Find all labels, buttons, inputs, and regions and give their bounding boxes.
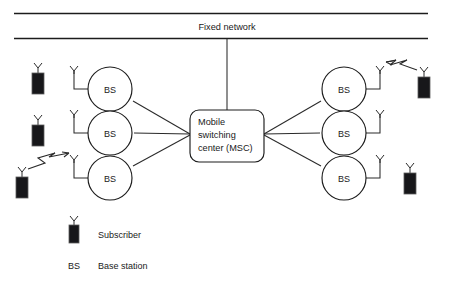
bs-left-top-label: BS [104, 85, 116, 95]
diagram-canvas: Fixed network Mobile switching center (M… [0, 0, 454, 287]
bs-right-top-node[interactable]: BS [322, 66, 384, 111]
bs-left-middle-label: BS [104, 129, 116, 139]
subscriber-left-bottom[interactable] [16, 167, 28, 198]
legend-subscriber-label: Subscriber [98, 230, 141, 240]
bs-right-middle-label: BS [338, 129, 350, 139]
link-bs-right-top-to-msc [264, 101, 321, 134]
legend-subscriber-handset-icon [69, 225, 79, 243]
subscriber-left-bottom-handset[interactable] [16, 177, 28, 198]
subscriber-left-middle-handset[interactable] [32, 125, 44, 146]
msc-label-line3: center (MSC) [198, 143, 253, 153]
subscriber-right-top-handset[interactable] [418, 77, 430, 98]
bs-right-bottom-node[interactable]: BS [322, 155, 384, 200]
fixed-network-group: Fixed network [14, 14, 428, 39]
bs-right-bottom-label: BS [338, 174, 350, 184]
bs-right-middle-mast [366, 115, 380, 133]
subscriber-left-bottom-antenna-icon [18, 167, 26, 177]
bs-left-bottom-node[interactable]: BS [70, 155, 132, 200]
bs-left-top-mast [74, 71, 88, 89]
link-bs-left-middle-to-msc [134, 133, 190, 134]
bs-left-bottom-antenna-icon [70, 155, 78, 163]
subscriber-right-top[interactable] [418, 67, 430, 98]
left-backhaul-links [133, 101, 190, 166]
bs-left-middle-mast [74, 115, 88, 133]
msc-label-line2: switching [198, 130, 236, 140]
link-bs-right-middle-to-msc [264, 133, 320, 134]
msc-label-line1: Mobile [198, 117, 225, 127]
subscriber-left-middle[interactable] [32, 115, 44, 146]
link-bs-right-bottom-to-msc [264, 135, 321, 166]
bs-left-middle-antenna-icon [70, 110, 78, 118]
bs-left-bottom-label: BS [104, 174, 116, 184]
right-backhaul-links [264, 101, 321, 166]
bs-right-bottom-mast [366, 160, 380, 178]
bs-right-middle-antenna-icon [376, 110, 384, 118]
bs-right-top-label: BS [338, 85, 350, 95]
legend-item-base-station: BS Base station [68, 261, 148, 271]
subscriber-left-top-handset[interactable] [32, 73, 44, 94]
subscriber-left-top[interactable] [32, 63, 44, 94]
subscriber-left-middle-antenna-icon [34, 115, 42, 125]
subscriber-right-top-antenna-icon [420, 67, 428, 77]
link-bs-left-bottom-to-msc [133, 135, 190, 166]
legend-base-station-label: Base station [98, 261, 148, 271]
bs-left-bottom-mast [74, 160, 88, 178]
bs-left-middle-node[interactable]: BS [70, 110, 132, 155]
bs-right-top-antenna-icon [376, 66, 384, 74]
legend-item-subscriber: Subscriber [69, 216, 141, 243]
radio-link-left-icon [28, 152, 69, 169]
bs-right-top-mast [366, 71, 380, 89]
legend: Subscriber BS Base station [68, 216, 148, 271]
subscriber-right-bottom-antenna-icon [406, 163, 414, 173]
cellular-network-diagram: Fixed network Mobile switching center (M… [0, 0, 454, 287]
msc-node[interactable]: Mobile switching center (MSC) [190, 110, 264, 162]
subscriber-right-bottom[interactable] [404, 163, 416, 194]
bs-right-bottom-antenna-icon [376, 155, 384, 163]
legend-base-station-key: BS [68, 261, 80, 271]
radio-link-right-icon [386, 60, 417, 70]
subscriber-right-bottom-handset[interactable] [404, 173, 416, 194]
bs-left-top-node[interactable]: BS [70, 66, 132, 111]
link-bs-left-top-to-msc [133, 101, 190, 134]
fixed-network-label: Fixed network [198, 22, 256, 32]
legend-subscriber-antenna-icon [70, 216, 78, 225]
bs-right-middle-node[interactable]: BS [322, 110, 384, 155]
subscriber-left-top-antenna-icon [34, 63, 42, 73]
bs-left-top-antenna-icon [70, 66, 78, 74]
